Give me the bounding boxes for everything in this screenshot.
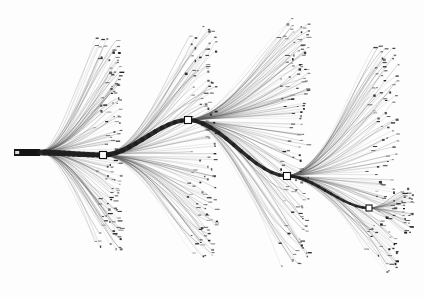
internal-node-n3 [284,173,291,180]
internal-node-n1 [100,152,107,159]
internal-node-n4 [366,205,372,211]
tree-diagram [0,0,424,297]
internal-node-n2 [185,117,192,124]
visualization-canvas: Hierarchical edge-bundled dendrogram [0,0,424,297]
